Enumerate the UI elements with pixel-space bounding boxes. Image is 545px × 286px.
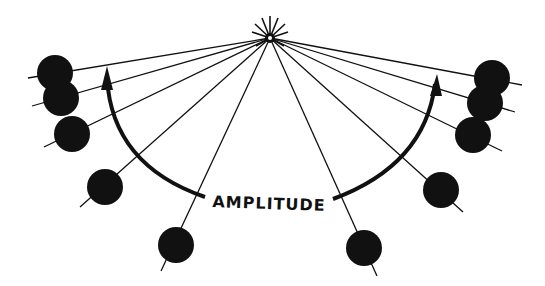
arc-arrow-left-icon [107,78,205,197]
bob [158,227,194,263]
right-bobs [346,60,510,266]
bob [467,85,503,121]
bob [43,80,79,116]
arc-arrow-left-head [101,66,113,90]
bob [423,172,459,208]
bob [54,116,90,152]
bob [87,169,123,205]
amplitude-label: AMPLITUDE [212,192,326,215]
arc-arrow-right-head [430,74,442,96]
pivot-hole [268,36,272,40]
pendulum-diagram: AMPLITUDE [0,0,545,286]
bob [455,117,491,153]
bob [346,230,382,266]
